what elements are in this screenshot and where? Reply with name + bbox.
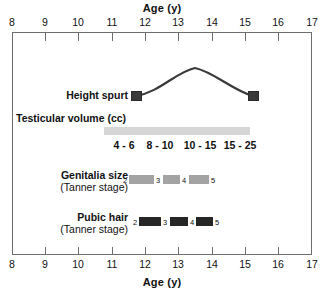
tick-label-bottom-0: 8 [0, 258, 24, 270]
genitalia-size-title: Genitalia size [61, 169, 128, 181]
height-spurt-label: Height spurt [66, 89, 128, 101]
tick-mark-bottom-6 [212, 247, 213, 255]
tick-label-bottom-7: 15 [233, 258, 257, 270]
testicular-value-3: 15 - 25 [224, 139, 257, 151]
testicular-value-2: 10 - 15 [184, 139, 217, 151]
tick-label-top-1: 9 [33, 16, 57, 28]
testicular-value-0: 4 - 6 [113, 139, 134, 151]
pubic-hair-stage-num-4: 4 [190, 218, 194, 227]
tick-mark-bottom-8 [278, 247, 279, 255]
tick-label-bottom-3: 11 [100, 258, 124, 270]
puberty-staging-chart: Age (y) 8 9 10 11 12 13 14 15 16 17 8 9 … [0, 0, 324, 296]
testicular-volume-bar [104, 127, 250, 135]
tick-label-bottom-1: 9 [33, 258, 57, 270]
genitalia-size-label: Genitalia size (Tanner stage) [60, 169, 128, 193]
height-spurt-end-marker [248, 91, 259, 101]
tick-label-bottom-6: 14 [200, 258, 224, 270]
genitalia-stage-num-5: 5 [211, 176, 215, 185]
pubic-hair-label: Pubic hair (Tanner stage) [60, 211, 128, 235]
tick-label-top-7: 15 [233, 16, 257, 28]
height-spurt-start-marker [131, 91, 142, 101]
testicular-value-1: 8 - 10 [147, 139, 174, 151]
tick-label-top-3: 11 [100, 16, 124, 28]
tick-label-bottom-9: 17 [300, 258, 324, 270]
tick-label-top-8: 16 [266, 16, 290, 28]
tick-mark-bottom-7 [245, 247, 246, 255]
genitalia-size-sublabel: (Tanner stage) [60, 181, 128, 193]
tick-label-top-5: 13 [166, 16, 190, 28]
pubic-hair-segment-3 [196, 217, 213, 226]
pubic-hair-segment-2 [170, 217, 188, 226]
tick-label-top-9: 17 [300, 16, 324, 28]
axis-title-bottom: Age (y) [0, 276, 324, 288]
genitalia-stage-num-2: 2 [123, 176, 127, 185]
tick-mark-bottom-1 [45, 247, 46, 255]
genitalia-stage-num-4: 4 [182, 176, 186, 185]
pubic-hair-title: Pubic hair [77, 211, 128, 223]
tick-label-bottom-5: 13 [166, 258, 190, 270]
tick-mark-bottom-3 [112, 247, 113, 255]
pubic-hair-segment-1 [139, 217, 161, 226]
tick-label-bottom-4: 12 [133, 258, 157, 270]
tick-mark-bottom-5 [178, 247, 179, 255]
tick-mark-bottom-4 [145, 247, 146, 255]
tick-label-top-0: 8 [0, 16, 24, 28]
pubic-hair-stage-num-2: 2 [133, 218, 137, 227]
genitalia-segment-1 [129, 175, 154, 184]
tick-label-top-2: 10 [66, 16, 90, 28]
tick-label-bottom-8: 16 [266, 258, 290, 270]
tick-label-top-4: 12 [133, 16, 157, 28]
tick-label-bottom-2: 10 [66, 258, 90, 270]
tick-mark-bottom-2 [78, 247, 79, 255]
genitalia-segment-3 [189, 175, 209, 184]
axis-title-top: Age (y) [0, 2, 324, 14]
genitalia-segment-2 [163, 175, 180, 184]
tick-label-top-6: 14 [200, 16, 224, 28]
pubic-hair-stage-num-3: 3 [163, 218, 167, 227]
genitalia-stage-num-3: 3 [156, 176, 160, 185]
testicular-volume-label: Testicular volume (cc) [16, 112, 126, 124]
pubic-hair-sublabel: (Tanner stage) [60, 223, 128, 235]
pubic-hair-stage-num-5: 5 [215, 218, 219, 227]
